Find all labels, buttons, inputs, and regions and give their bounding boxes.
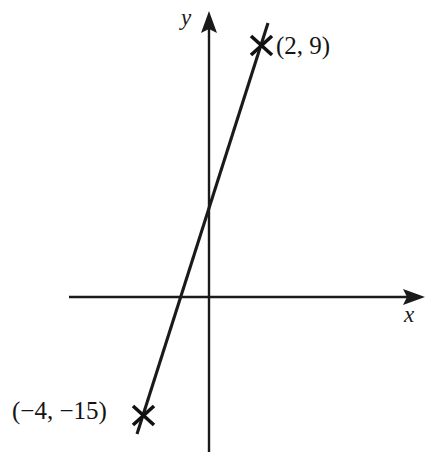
plotted-line bbox=[137, 23, 268, 434]
graph-canvas bbox=[0, 0, 437, 452]
y-axis-label: y bbox=[181, 6, 191, 29]
x-axis-label: x bbox=[404, 303, 414, 326]
point-label-2-9: (2, 9) bbox=[276, 33, 330, 58]
coordinate-plane-figure: y x (2, 9) (−4, −15) bbox=[0, 0, 437, 452]
point-label-neg4-neg15: (−4, −15) bbox=[12, 398, 107, 423]
